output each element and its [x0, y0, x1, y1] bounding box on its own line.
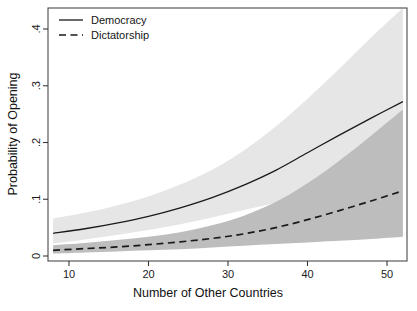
y-tick-label: .1	[30, 195, 42, 204]
y-tick-label: .3	[30, 81, 42, 90]
legend-label-dictatorship: Dictatorship	[91, 29, 149, 41]
x-tick-label: 40	[301, 268, 313, 280]
probability-of-opening-chart: 0.1.2.3.4 1020304050 Number of Other Cou…	[0, 0, 417, 311]
chart-figure: 0.1.2.3.4 1020304050 Number of Other Cou…	[0, 0, 417, 311]
y-axis-title: Probability of Opening	[6, 72, 20, 195]
x-axis-title: Number of Other Countries	[133, 286, 283, 300]
y-tick-label: 0	[30, 253, 42, 259]
legend-label-democracy: Democracy	[91, 14, 147, 26]
x-tick-label: 30	[222, 268, 234, 280]
x-tick-label: 20	[142, 268, 154, 280]
x-tick-label: 50	[381, 268, 393, 280]
y-tick-label: .2	[30, 138, 42, 147]
y-tick-label: .4	[30, 24, 42, 33]
x-tick-label: 10	[63, 268, 75, 280]
